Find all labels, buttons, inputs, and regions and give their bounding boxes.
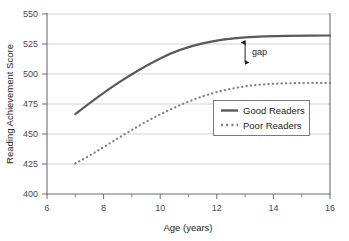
x-tick-label-16: 16: [325, 203, 335, 213]
y-tick-label-525: 525: [23, 39, 38, 49]
chart-canvas: 550 525 500 475 450 425 400 6 8 10 12 14…: [0, 0, 349, 241]
gap-annotation-label: gap: [252, 47, 267, 57]
legend-label-poor-readers: Poor Readers: [243, 120, 302, 131]
y-tick-label-450: 450: [23, 129, 38, 139]
y-tick-label-425: 425: [23, 159, 38, 169]
legend-label-good-readers: Good Readers: [243, 105, 305, 116]
x-tick-label-14: 14: [268, 203, 278, 213]
x-tick-label-10: 10: [155, 203, 165, 213]
x-axis-title: Age (years): [163, 222, 212, 233]
x-tick-label-12: 12: [212, 203, 222, 213]
y-tick-label-475: 475: [23, 99, 38, 109]
x-tick-label-8: 8: [101, 203, 106, 213]
reading-achievement-chart: 550 525 500 475 450 425 400 6 8 10 12 14…: [0, 0, 349, 241]
y-tick-label-500: 500: [23, 69, 38, 79]
y-tick-label-400: 400: [23, 189, 38, 199]
x-tick-label-6: 6: [44, 203, 49, 213]
chart-legend[interactable]: Good Readers Poor Readers: [214, 101, 310, 136]
y-tick-label-550: 550: [23, 9, 38, 19]
y-axis-title: Reading Achievement Score: [4, 44, 15, 164]
